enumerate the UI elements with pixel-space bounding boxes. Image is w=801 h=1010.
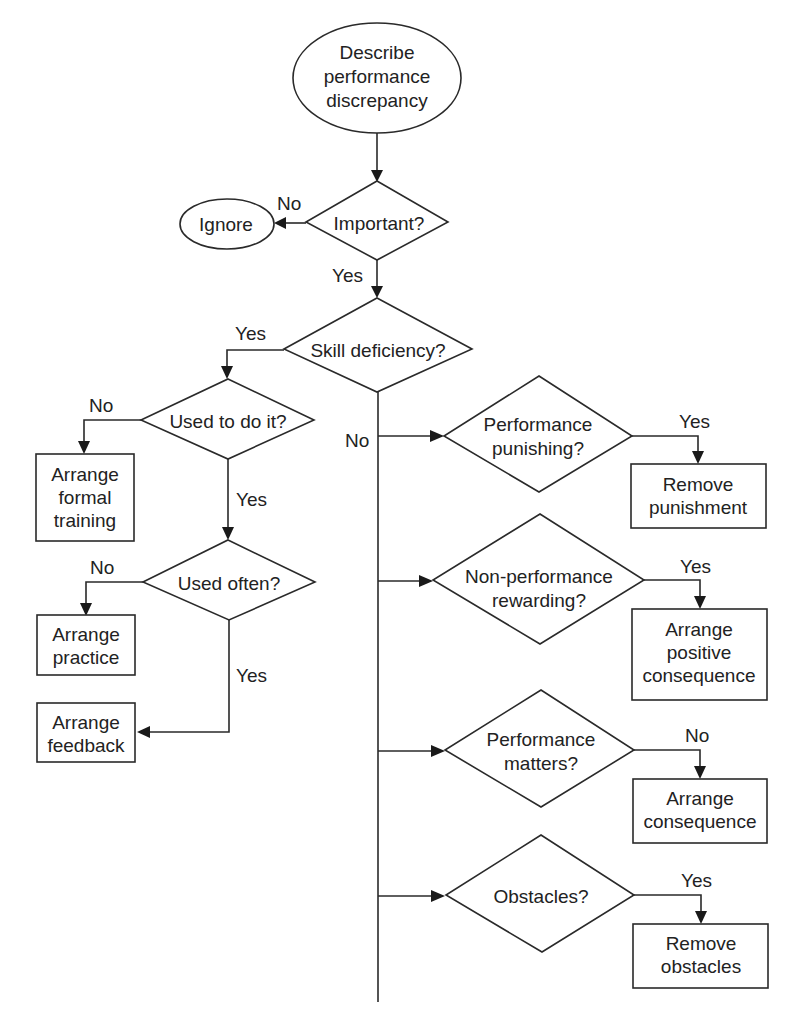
node-label: Arrange — [52, 712, 120, 733]
node-label: Ignore — [199, 214, 253, 235]
edge-label-no: No — [345, 430, 369, 451]
node-label: punishment — [649, 497, 748, 518]
node-ignore: Ignore — [180, 199, 274, 249]
arrow-head-icon — [692, 451, 704, 464]
arrow-head-icon — [695, 911, 707, 924]
node-label: Used often? — [178, 573, 280, 594]
node-label: Used to do it? — [169, 411, 286, 432]
node-important: Important? — [306, 181, 448, 260]
node-nonperf-rewarding: Non-performance rewarding? — [433, 514, 644, 644]
arrow-head-icon — [430, 430, 444, 442]
connector-skill-usedto — [227, 350, 284, 370]
node-remove-punishment: Remove punishment — [631, 464, 766, 528]
node-matters: Performance matters? — [445, 690, 634, 807]
connector-rewarding-positive — [644, 580, 700, 597]
node-label: Arrange — [51, 464, 119, 485]
connector-usedoften-feedback — [148, 620, 229, 732]
arrow-head-icon — [274, 217, 286, 229]
node-positive-consequence: Arrange positive consequence — [632, 609, 767, 700]
edge-label-no: No — [90, 557, 114, 578]
edge-label-yes: Yes — [235, 323, 266, 344]
node-label: Describe — [340, 42, 415, 63]
edge-label-no: No — [685, 725, 709, 746]
node-label: Arrange — [666, 788, 734, 809]
node-used-to: Used to do it? — [141, 379, 314, 459]
edge-label-yes: Yes — [681, 870, 712, 891]
connector-matters-consequence — [634, 750, 700, 767]
arrow-head-icon — [694, 766, 706, 779]
arrow-head-icon — [371, 286, 383, 298]
arrow-head-icon — [80, 603, 92, 616]
edge-label-no: No — [89, 395, 113, 416]
node-label: Arrange — [665, 619, 733, 640]
node-label: discrepancy — [326, 90, 428, 111]
node-punishing: Performance punishing? — [444, 376, 632, 492]
edge-label-yes: Yes — [332, 265, 363, 286]
node-remove-obstacles: Remove obstacles — [633, 924, 768, 988]
arrow-head-icon — [431, 745, 445, 757]
node-label: feedback — [47, 735, 125, 756]
node-obstacles: Obstacles? — [446, 835, 634, 952]
edge-label-yes: Yes — [236, 489, 267, 510]
edge-label-no: No — [277, 193, 301, 214]
node-label: Non-performance — [465, 566, 613, 587]
connector-punishing-remove — [632, 436, 698, 452]
connector-usedoften-practice — [86, 582, 143, 604]
node-feedback: Arrange feedback — [37, 703, 135, 762]
edge-label-yes: Yes — [236, 665, 267, 686]
node-label: performance — [324, 66, 431, 87]
node-label: training — [54, 510, 116, 531]
node-formal-training: Arrange formal training — [36, 454, 134, 541]
node-start: Describe performance discrepancy — [293, 23, 461, 133]
node-label: Performance — [487, 729, 596, 750]
node-label: Arrange — [52, 624, 120, 645]
node-label: Performance — [484, 414, 593, 435]
node-label: positive — [667, 642, 731, 663]
node-consequence: Arrange consequence — [633, 779, 767, 843]
connector-obstacles-remove — [634, 895, 701, 912]
node-label: Remove — [663, 474, 734, 495]
node-label: consequence — [643, 811, 756, 832]
node-label: Remove — [666, 933, 737, 954]
arrow-head-icon — [431, 890, 445, 902]
edge-label-yes: Yes — [679, 411, 710, 432]
arrow-head-icon — [137, 726, 150, 738]
node-skill: Skill deficiency? — [284, 298, 472, 392]
arrow-head-icon — [222, 527, 234, 540]
node-label: punishing? — [492, 438, 584, 459]
edge-labels: No Yes Yes No No Yes No Yes Yes Yes No Y… — [89, 193, 712, 891]
node-label: obstacles — [661, 956, 741, 977]
node-label: practice — [53, 647, 120, 668]
node-label: consequence — [642, 665, 755, 686]
node-label: formal — [59, 487, 112, 508]
node-label: Important? — [334, 213, 425, 234]
node-practice: Arrange practice — [37, 615, 135, 675]
node-label: rewarding? — [492, 590, 586, 611]
arrow-head-icon — [78, 441, 90, 454]
node-label: Obstacles? — [493, 886, 588, 907]
node-used-often: Used often? — [143, 540, 315, 620]
connector-usedto-training — [84, 420, 141, 442]
arrow-head-icon — [694, 596, 706, 609]
arrow-head-icon — [221, 366, 233, 379]
edge-label-yes: Yes — [680, 556, 711, 577]
flowchart-canvas: Describe performance discrepancy Importa… — [0, 0, 801, 1010]
arrow-head-icon — [419, 575, 433, 587]
node-label: matters? — [504, 753, 578, 774]
node-label: Skill deficiency? — [310, 340, 445, 361]
